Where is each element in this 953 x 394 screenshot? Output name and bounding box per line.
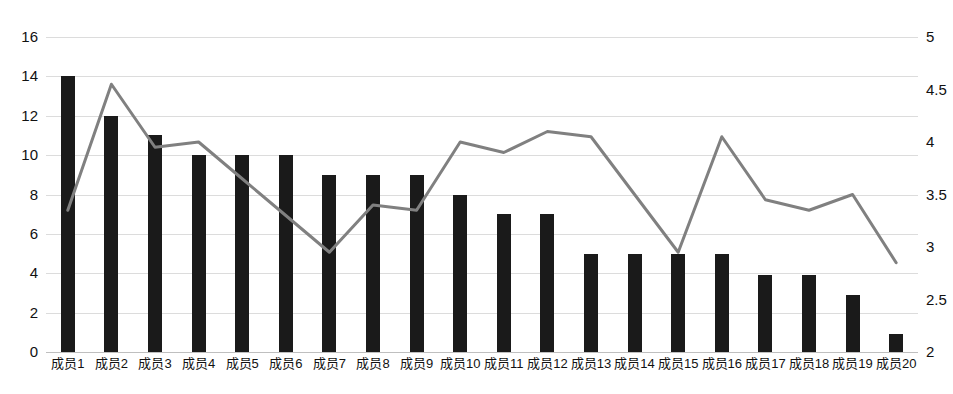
y-axis-right-tick: 4.5	[926, 82, 947, 97]
y-axis-right: 22.533.544.55	[926, 0, 953, 394]
chart-container: 0246810121416 22.533.544.55 成员1成员2成员3成员4…	[0, 0, 953, 394]
x-axis-tick-label: 成员18	[789, 356, 829, 372]
x-axis-tick-label: 成员19	[832, 356, 872, 372]
y-axis-left-tick: 4	[30, 265, 38, 280]
y-axis-left-tick: 12	[21, 108, 38, 123]
y-axis-left-tick: 6	[30, 226, 38, 241]
y-axis-left-tick: 10	[21, 147, 38, 162]
x-axis-tick-label: 成员16	[702, 356, 742, 372]
y-axis-left-tick: 0	[30, 344, 38, 359]
y-axis-left-tick: 16	[21, 29, 38, 44]
x-axis-tick-label: 成员11	[484, 356, 524, 372]
y-axis-right-tick: 5	[926, 29, 934, 44]
line-series-layer	[46, 37, 918, 352]
y-axis-left-tick: 14	[21, 68, 38, 83]
y-axis-right-tick: 2	[926, 344, 934, 359]
x-axis-tick-label: 成员5	[226, 356, 259, 372]
y-axis-right-tick: 3	[926, 239, 934, 254]
x-axis-tick-label: 成员8	[356, 356, 389, 372]
x-axis-tick-label: 成员12	[527, 356, 567, 372]
x-axis-labels: 成员1成员2成员3成员4成员5成员6成员7成员8成员9成员10成员11成员12成…	[46, 356, 918, 382]
x-axis-tick-label: 成员10	[440, 356, 480, 372]
line-series-path	[68, 84, 896, 263]
x-axis-tick-label: 成员2	[95, 356, 128, 372]
x-axis-tick-label: 成员3	[138, 356, 171, 372]
y-axis-right-tick: 4	[926, 134, 934, 149]
x-axis-tick-label: 成员13	[571, 356, 611, 372]
y-axis-left-tick: 8	[30, 187, 38, 202]
x-axis-tick-label: 成员1	[51, 356, 84, 372]
x-axis-tick-label: 成员6	[269, 356, 302, 372]
y-axis-left-tick: 2	[30, 305, 38, 320]
x-axis-tick-label: 成员15	[658, 356, 698, 372]
x-axis-tick-label: 成员14	[614, 356, 654, 372]
x-axis-tick-label: 成员4	[182, 356, 215, 372]
x-axis-tick-label: 成员20	[876, 356, 916, 372]
y-axis-left: 0246810121416	[0, 0, 38, 394]
x-axis-tick-label: 成员7	[313, 356, 346, 372]
line-series-svg	[46, 37, 918, 352]
x-axis-tick-label: 成员9	[400, 356, 433, 372]
y-axis-right-tick: 2.5	[926, 292, 947, 307]
gridline	[46, 352, 918, 353]
x-axis-tick-label: 成员17	[745, 356, 785, 372]
y-axis-right-tick: 3.5	[926, 187, 947, 202]
